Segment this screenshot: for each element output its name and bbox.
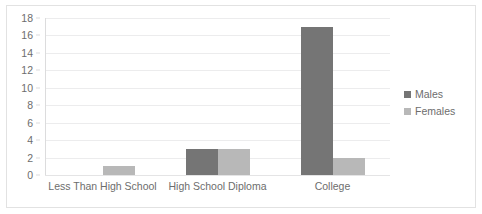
y-tick-mark [36, 105, 40, 106]
x-axis-label: College [275, 179, 390, 193]
plot-area [45, 18, 390, 175]
y-tick-mark [36, 175, 40, 176]
y-tick-mark [36, 157, 40, 158]
y-tick-label: 18 [21, 13, 33, 24]
y-tick-label: 8 [27, 100, 33, 111]
bar-group [71, 18, 135, 175]
bar-females [333, 158, 365, 175]
legend-swatch-icon [404, 108, 411, 115]
chart-legend: MalesFemales [404, 86, 455, 120]
bar-group [301, 18, 365, 175]
y-tick-mark [36, 70, 40, 71]
gridline [45, 175, 390, 176]
bars-layer [45, 18, 390, 175]
y-axis-tick-labels: 024681012141618 [0, 18, 40, 175]
y-tick-mark [36, 18, 40, 19]
x-axis-category-labels: Less Than High SchoolHigh School Diploma… [45, 179, 390, 197]
y-tick-label: 10 [21, 83, 33, 94]
bar-chart-figure: 024681012141618 Less Than High SchoolHig… [0, 0, 482, 214]
legend-swatch-icon [404, 91, 411, 98]
x-axis-label: Less Than High School [45, 179, 160, 193]
legend-label: Males [415, 89, 443, 100]
legend-label: Females [415, 106, 455, 117]
y-tick-mark [36, 52, 40, 53]
y-tick-mark [36, 122, 40, 123]
x-axis-label: High School Diploma [160, 179, 275, 193]
y-tick-label: 12 [21, 65, 33, 76]
legend-item-females[interactable]: Females [404, 103, 455, 120]
y-tick-label: 6 [27, 117, 33, 128]
bar-males [186, 149, 218, 175]
y-tick-label: 2 [27, 152, 33, 163]
y-tick-mark [36, 87, 40, 88]
y-tick-mark [36, 35, 40, 36]
legend-item-males[interactable]: Males [404, 86, 455, 103]
bar-females [218, 149, 250, 175]
bar-females [103, 166, 135, 175]
y-tick-mark [36, 140, 40, 141]
y-tick-label: 0 [27, 170, 33, 181]
bar-males [301, 27, 333, 175]
bar-group [186, 18, 250, 175]
y-tick-label: 14 [21, 48, 33, 59]
y-tick-label: 4 [27, 135, 33, 146]
y-tick-label: 16 [21, 30, 33, 41]
